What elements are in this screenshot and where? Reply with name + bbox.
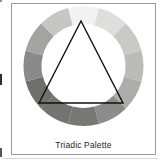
color-wheel[interactable] <box>12 4 155 135</box>
figure-caption: Triadic Palette <box>12 140 155 150</box>
page-edge-mark-bottom <box>0 148 2 157</box>
color-wheel-segments <box>24 6 144 126</box>
page-bottom-rule <box>3 158 158 159</box>
figure-frame: Triadic Palette <box>11 3 156 155</box>
page-edge-mark-middle <box>0 74 2 85</box>
wheel-segment-top[interactable] <box>68 6 99 25</box>
page-edge-mark-top <box>0 0 2 2</box>
wheel-segment-right[interactable] <box>124 50 143 81</box>
wheel-segment-left[interactable] <box>24 50 43 81</box>
wheel-segment-bottom[interactable] <box>68 107 99 126</box>
figure-panel: Triadic Palette <box>0 0 160 161</box>
color-wheel-area <box>12 4 155 135</box>
